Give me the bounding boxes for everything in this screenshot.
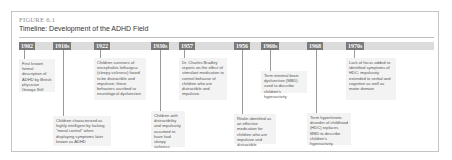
year-1956: 1956	[234, 42, 250, 50]
event-1968-desc: Term hyperkinetic disorder of childhood …	[307, 113, 351, 145]
event-1910s-desc: Children characterized as highly intelli…	[53, 116, 111, 146]
header-divider	[19, 37, 434, 38]
year-1957: 1957	[179, 42, 195, 50]
year-1902: 1902	[19, 42, 35, 50]
connector-1957	[184, 50, 185, 58]
year-1910s: 1910s	[53, 42, 71, 50]
event-1956-desc: Ritalin identified as an effective medic…	[234, 114, 276, 144]
connector-1968	[316, 50, 317, 113]
timeline-band	[19, 42, 434, 50]
figure-title: Timeline: Development of the ADHD Field	[19, 25, 148, 32]
figure-label: FIGURE 6.1	[19, 16, 55, 23]
event-1970s-desc: Lack of focus added to identified sympto…	[346, 58, 396, 100]
connector-1922	[100, 50, 101, 58]
timeline-figure: FIGURE 6.1 Timeline: Development of the …	[11, 11, 439, 152]
event-1960s-desc: Term minimal brain dysfunction (MBD) use…	[261, 71, 307, 93]
event-1902-desc: First known formal description of ADHD b…	[19, 59, 55, 92]
year-1960s: 1960s	[261, 42, 279, 50]
connector-1902	[24, 50, 25, 59]
year-1922: 1922	[94, 42, 110, 50]
event-1930s-desc: Children with distractibility and impuls…	[151, 111, 185, 147]
year-1970s: 1970s	[346, 42, 364, 50]
year-1968: 1968	[307, 42, 323, 50]
connector-1910s	[63, 50, 64, 116]
connector-1970s	[354, 50, 355, 58]
connector-1960s	[270, 50, 271, 71]
year-1930s: 1930s	[151, 42, 169, 50]
event-1922-desc: Children survivors of encephalitis letha…	[94, 58, 146, 100]
connector-1930s	[160, 50, 161, 111]
event-1957-desc: Dr. Charles Bradley reports on the effec…	[179, 58, 227, 100]
connector-1956	[242, 50, 243, 114]
